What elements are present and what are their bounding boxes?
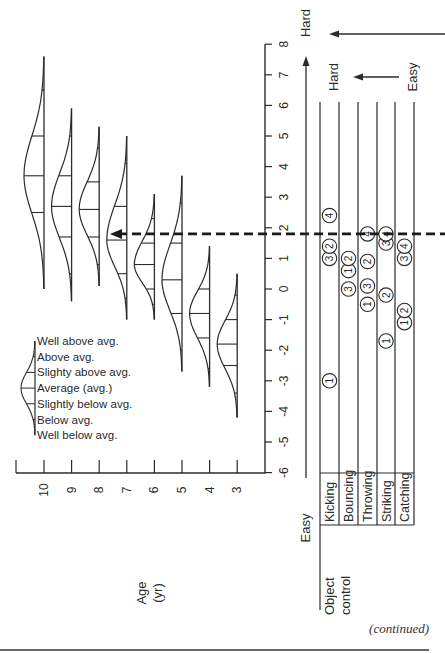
difficulty-tick-label: 3: [277, 194, 291, 201]
step-number: 1: [399, 319, 410, 325]
skill-label: Catching: [398, 473, 412, 522]
step-number: 1: [324, 378, 335, 384]
age-axis: 109876543Age(yr): [16, 460, 265, 605]
difficulty-tick-label: -6: [277, 467, 291, 478]
age-distribution-curves: [24, 56, 237, 417]
step-number: 2: [343, 255, 354, 261]
age-3-distribution: [217, 274, 237, 418]
legend-entry: Well below avg.: [37, 429, 117, 441]
age-tick-label: 6: [147, 486, 161, 493]
difficulty-tick-label: 0: [277, 285, 291, 292]
easy-label-main: Easy: [298, 513, 313, 542]
age-tick-label: 4: [203, 486, 217, 493]
legend-entry: Slighty above avg.: [37, 366, 131, 378]
age-10-distribution: [24, 56, 44, 289]
step-number: 2: [399, 307, 410, 313]
difficulty-tick-label: 6: [277, 102, 291, 109]
step-number: 3: [399, 255, 410, 261]
step-number: 2: [381, 292, 392, 298]
legend-entry: Slightly below avg.: [37, 398, 132, 410]
age-tick-label: 10: [37, 483, 51, 497]
step-number: 1: [362, 301, 373, 307]
difficulty-tick-label: -5: [277, 436, 291, 447]
step-number: 3: [362, 283, 373, 289]
skill-label: Kicking: [323, 482, 337, 522]
difficulty-tick-label: 4: [277, 163, 291, 170]
difficulty-tick-label: 8: [277, 41, 291, 48]
difficulty-tick-label: 5: [277, 132, 291, 139]
difficulty-tick-label: 7: [277, 71, 291, 78]
age-9-distribution: [52, 108, 72, 301]
skill-label: Throwing: [361, 471, 375, 522]
step-number: 4: [324, 212, 335, 218]
difficulty-tick-label: -4: [277, 406, 291, 417]
legend-entry: Well above avg.: [37, 335, 119, 347]
difficulty-tick-label: 1: [277, 255, 291, 262]
skill-bouncing: Bouncing312: [341, 251, 356, 522]
difficulty-tick-label: 2: [277, 224, 291, 231]
skill-label: Bouncing: [342, 470, 356, 522]
age-tick-label: 9: [65, 486, 79, 493]
skill-striking: Striking1234: [379, 227, 394, 522]
legend-entry: Average (avg.): [37, 382, 112, 394]
age-4-distribution: [190, 246, 210, 387]
age-tick-label: 8: [92, 486, 106, 493]
age-axis-label: Age: [134, 581, 149, 604]
annotations: HardEasyHardEasy(continued): [0, 9, 445, 650]
age-tick-label: 5: [175, 486, 189, 493]
continued-note: (continued): [369, 621, 429, 636]
legend-entry: Below avg.: [37, 414, 93, 426]
arrow-head-icon: [110, 229, 122, 239]
skill-throwing: Throwing1324: [360, 227, 375, 522]
category-label-2: control: [338, 576, 353, 615]
hard-label-sub: Hard: [326, 63, 341, 91]
age-5-distribution: [162, 176, 182, 372]
age-7-distribution: [107, 136, 127, 320]
age-tick-label: 7: [120, 486, 134, 493]
step-number: 1: [381, 338, 392, 344]
skill-columns: Kicking1324Bouncing312Throwing1324Striki…: [320, 102, 414, 615]
step-number: 1: [343, 267, 354, 273]
step-number: 2: [324, 243, 335, 249]
age-tick-label: 3: [230, 486, 244, 493]
age-axis-unit: (yr): [150, 583, 165, 603]
developmental-sequence-chart: 876543210-1-2-3-4-5-6 109876543Age(yr) K…: [0, 0, 445, 653]
step-number: 4: [399, 243, 410, 249]
legend-entry: Above avg.: [37, 351, 95, 363]
hard-label-main: Hard: [298, 9, 313, 37]
category-label: Object: [322, 577, 337, 615]
age-6-distribution: [134, 194, 154, 320]
easy-label-sub: Easy: [405, 62, 420, 91]
difficulty-tick-label: -2: [277, 345, 291, 356]
difficulty-axis: 876543210-1-2-3-4-5-6: [265, 41, 291, 478]
step-number: 2: [362, 258, 373, 264]
step-number: 3: [324, 255, 335, 261]
skill-catching: Catching1234: [397, 239, 412, 522]
difficulty-tick-label: -1: [277, 314, 291, 325]
skill-label: Striking: [380, 480, 394, 522]
step-number: 3: [343, 286, 354, 292]
difficulty-tick-label: -3: [277, 375, 291, 386]
skill-kicking: Kicking1324: [322, 208, 337, 522]
legend: Well above avg.Above avg.Slighty above a…: [21, 335, 132, 441]
age-8-distribution: [79, 127, 99, 286]
